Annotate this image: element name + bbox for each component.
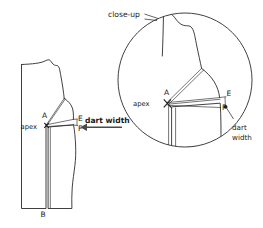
main-point-f-label: F [78, 124, 82, 133]
pattern-diagram-svg: apex A B E F dart width close-up [0, 0, 263, 228]
closeup-contents [118, 14, 228, 150]
closeup-dart-leg-upper-2 [169, 70, 204, 104]
main-point-b-label: B [40, 210, 45, 219]
main-apex-x-marker [44, 123, 49, 128]
dart-width-callout-main: dart width [80, 116, 129, 132]
closeup-armhole-side-curve [202, 68, 220, 97]
closeup-left-edge [162, 15, 163, 56]
closeup-point-a-label: A [164, 88, 170, 97]
main-armhole-side-curve [64, 98, 73, 119]
closeup-magnifier-group: apex A E F dart width [118, 13, 252, 150]
closeup-dart-width-label-line1: dart [232, 123, 247, 132]
dart-width-label-main: dart width [85, 116, 130, 125]
main-point-e-label: E [78, 114, 83, 123]
diagram-root: apex A B E F dart width close-up [0, 0, 263, 228]
main-point-a-label: A [42, 111, 48, 120]
closeup-point-f-label: F [222, 103, 226, 112]
closeup-leader-line [145, 14, 159, 19]
closeup-dart-width-label-line2: width [232, 133, 252, 142]
closeup-label: close-up [108, 10, 140, 19]
closeup-point-e-label: E [227, 89, 232, 98]
main-dart-leg-upper [47, 98, 65, 124]
main-right-panel-outline [49, 125, 76, 209]
closeup-callout: close-up [108, 10, 158, 21]
main-apex-label: apex [21, 123, 38, 131]
closeup-apex-label: apex [133, 100, 150, 108]
main-left-panel-outline [22, 65, 47, 209]
closeup-dart-leg-upper [168, 68, 202, 102]
main-neckline-shoulder-curve [22, 60, 65, 99]
closeup-right-panel-outline [172, 103, 221, 148]
main-pattern-figure: apex A B E F [21, 60, 84, 219]
closeup-dart-width-leader [226, 107, 233, 119]
